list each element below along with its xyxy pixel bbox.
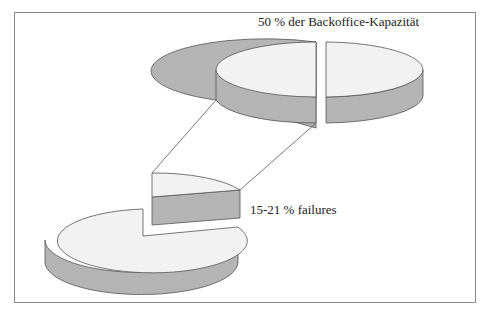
small-slice-label: 15-21 % failures xyxy=(250,202,337,218)
top-pie-label: 50 % der Backoffice-Kapazität xyxy=(258,14,419,30)
pie-chart-graphic xyxy=(0,0,490,315)
